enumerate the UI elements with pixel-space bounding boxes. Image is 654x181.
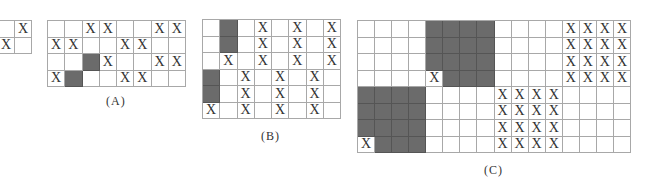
- marked-cell: X: [597, 71, 614, 88]
- empty-cell: [443, 137, 460, 154]
- empty-cell: [392, 21, 409, 38]
- empty-cell: [15, 38, 32, 55]
- shaded-cell: [375, 104, 392, 121]
- empty-cell: [409, 38, 426, 55]
- empty-cell: [220, 103, 237, 120]
- shaded-cell: [477, 54, 494, 71]
- marked-cell: X: [597, 54, 614, 71]
- empty-cell: [460, 104, 477, 121]
- empty-cell: [220, 70, 237, 87]
- empty-cell: [48, 21, 65, 38]
- empty-cell: [324, 70, 341, 87]
- empty-cell: [255, 86, 272, 103]
- empty-cell: [48, 54, 65, 71]
- marked-cell: X: [546, 120, 563, 137]
- marked-cell: X: [220, 53, 237, 70]
- empty-cell: [529, 71, 546, 88]
- marked-cell: X: [563, 71, 580, 88]
- marked-cell: X: [597, 38, 614, 55]
- empty-cell: [512, 38, 529, 55]
- shaded-cell: [375, 87, 392, 104]
- empty-cell: [117, 21, 134, 38]
- empty-cell: [495, 54, 512, 71]
- marked-cell: X: [289, 53, 306, 70]
- empty-cell: [614, 104, 631, 121]
- empty-cell: [289, 103, 306, 120]
- marked-cell: X: [546, 87, 563, 104]
- empty-cell: [426, 104, 443, 121]
- marked-cell: X: [614, 38, 631, 55]
- shaded-cell: [409, 120, 426, 137]
- empty-cell: [512, 54, 529, 71]
- grid-panel-a: XXXXXXXXXXXXXX: [47, 20, 186, 87]
- marked-cell: X: [48, 38, 65, 55]
- shaded-cell: [375, 120, 392, 137]
- empty-cell: [83, 71, 100, 88]
- empty-cell: [238, 20, 255, 37]
- panel-label-a: (A): [106, 94, 126, 109]
- empty-cell: [392, 38, 409, 55]
- shaded-cell: [460, 38, 477, 55]
- shaded-cell: [358, 104, 375, 121]
- marked-cell: X: [614, 71, 631, 88]
- marked-cell: X: [15, 21, 32, 38]
- marked-cell: X: [134, 38, 151, 55]
- marked-cell: X: [580, 71, 597, 88]
- empty-cell: [614, 137, 631, 154]
- marked-cell: X: [324, 53, 341, 70]
- marked-cell: X: [529, 104, 546, 121]
- shaded-cell: [65, 71, 82, 88]
- shaded-cell: [443, 54, 460, 71]
- grid-panel-c: XXXXXXXXXXXXXXXXXXXXXXXXXXXXXXXXXX: [357, 20, 631, 153]
- empty-cell: [614, 87, 631, 104]
- empty-cell: [392, 54, 409, 71]
- empty-cell: [477, 120, 494, 137]
- marked-cell: X: [289, 37, 306, 54]
- empty-cell: [477, 87, 494, 104]
- shaded-cell: [426, 54, 443, 71]
- empty-cell: [238, 37, 255, 54]
- empty-cell: [580, 87, 597, 104]
- grid-panel-b: XXXXXXXXXXXXXXXXXXXX: [202, 19, 341, 119]
- empty-cell: [289, 70, 306, 87]
- empty-cell: [392, 71, 409, 88]
- shaded-cell: [409, 104, 426, 121]
- panel-label-c: (C): [484, 163, 503, 178]
- empty-cell: [614, 120, 631, 137]
- empty-cell: [152, 71, 169, 88]
- shaded-cell: [477, 38, 494, 55]
- marked-cell: X: [238, 103, 255, 120]
- empty-cell: [358, 38, 375, 55]
- empty-cell: [358, 71, 375, 88]
- marked-cell: X: [307, 70, 324, 87]
- empty-cell: [546, 38, 563, 55]
- marked-cell: X: [563, 54, 580, 71]
- empty-cell: [324, 103, 341, 120]
- empty-cell: [512, 21, 529, 38]
- empty-cell: [529, 21, 546, 38]
- marked-cell: X: [289, 20, 306, 37]
- empty-cell: [272, 53, 289, 70]
- marked-cell: X: [563, 38, 580, 55]
- shaded-cell: [409, 137, 426, 154]
- marked-cell: X: [426, 71, 443, 88]
- marked-cell: X: [512, 87, 529, 104]
- marked-cell: X: [529, 137, 546, 154]
- empty-cell: [117, 54, 134, 71]
- empty-cell: [426, 87, 443, 104]
- marked-cell: X: [495, 87, 512, 104]
- empty-cell: [443, 104, 460, 121]
- partial-grid-left: XX: [0, 20, 32, 54]
- empty-cell: [597, 87, 614, 104]
- empty-cell: [546, 54, 563, 71]
- marked-cell: X: [529, 87, 546, 104]
- empty-cell: [597, 104, 614, 121]
- marked-cell: X: [238, 86, 255, 103]
- marked-cell: X: [512, 120, 529, 137]
- shaded-cell: [443, 71, 460, 88]
- empty-cell: [134, 54, 151, 71]
- empty-cell: [563, 87, 580, 104]
- marked-cell: X: [272, 86, 289, 103]
- shaded-cell: [358, 120, 375, 137]
- marked-cell: X: [597, 21, 614, 38]
